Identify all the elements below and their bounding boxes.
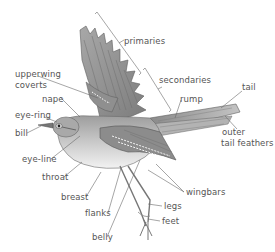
label-breast: breast	[61, 193, 89, 202]
label-upperwing-coverts-line1: upperwing	[15, 70, 61, 79]
label-eye-line: eye-line	[22, 155, 57, 164]
bird-anatomy-diagram: primaries secondaries upperwing coverts …	[0, 0, 275, 252]
label-throat: throat	[42, 173, 68, 182]
label-eye-ring: eye-ring	[15, 111, 51, 120]
label-flanks: flanks	[85, 209, 111, 218]
label-wingbars: wingbars	[186, 188, 225, 197]
body	[38, 116, 176, 169]
label-feet: feet	[162, 217, 179, 226]
legs	[120, 166, 152, 240]
label-bill: bill	[15, 129, 28, 138]
label-belly: belly	[92, 233, 113, 242]
label-outer-tail-feathers-line2: tail feathers	[221, 139, 274, 148]
label-secondaries: secondaries	[159, 76, 211, 85]
label-primaries: primaries	[124, 37, 165, 46]
label-legs: legs	[164, 202, 182, 211]
label-rump: rump	[180, 95, 203, 104]
label-nape: nape	[42, 95, 64, 104]
label-tail: tail	[242, 83, 256, 92]
label-outer-tail-feathers-line1: outer	[222, 128, 245, 137]
label-upperwing-coverts-line2: coverts	[15, 81, 47, 90]
